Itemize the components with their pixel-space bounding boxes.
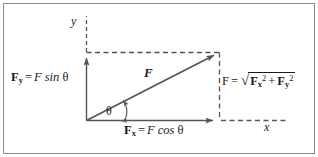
angle-label-theta: θ bbox=[106, 105, 112, 117]
fy-theta: θ bbox=[62, 70, 68, 84]
fx-equals: = bbox=[136, 123, 147, 137]
radicand-fx-symbol: F bbox=[250, 74, 258, 88]
angle-arc-arrow bbox=[124, 101, 127, 118]
fy-equals: = bbox=[23, 70, 34, 84]
radicand: Fx2+Fy2 bbox=[248, 72, 295, 88]
fx-theta: θ bbox=[178, 123, 184, 137]
fx-symbol: F bbox=[124, 123, 132, 137]
radicand-fy-symbol: F bbox=[277, 74, 285, 88]
vector-label-f: F bbox=[144, 66, 153, 79]
fy-expression: F sin bbox=[34, 70, 59, 84]
radicand-plus: + bbox=[266, 74, 277, 88]
figure-container: Fy=F sin θ Fx=F cos θ F=√Fx2+Fy2 F θ y x bbox=[0, 0, 318, 157]
fx-component-label: Fx=F cos θ bbox=[124, 124, 184, 138]
x-axis-label: x bbox=[264, 121, 269, 133]
fx-expression: F cos bbox=[147, 123, 174, 137]
fmag-equals: = bbox=[229, 74, 240, 88]
y-axis-label: y bbox=[71, 15, 76, 27]
radical-expression: √Fx2+Fy2 bbox=[240, 72, 295, 88]
radicand-fy-exponent: 2 bbox=[289, 73, 293, 83]
fy-component-label: Fy=F sin θ bbox=[11, 71, 68, 85]
force-magnitude-label: F=√Fx2+Fy2 bbox=[222, 72, 295, 88]
fmag-symbol: F bbox=[222, 74, 229, 88]
fy-symbol: F bbox=[11, 70, 19, 84]
